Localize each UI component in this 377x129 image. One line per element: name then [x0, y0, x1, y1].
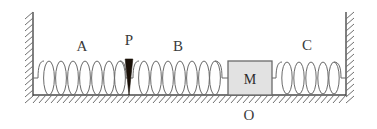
ground	[33, 95, 346, 103]
left-wall-hatching	[25, 12, 33, 103]
block-m-label: M	[244, 72, 257, 87]
ground-hatching	[33, 95, 346, 103]
label-spring-a: A	[77, 38, 88, 54]
label-pointer-p: P	[125, 32, 133, 48]
block-m: M	[228, 61, 272, 95]
left-wall	[25, 12, 33, 103]
spring-a	[33, 61, 129, 95]
spring-b	[129, 61, 228, 95]
label-spring-b: B	[173, 38, 183, 54]
label-spring-c: C	[302, 37, 312, 53]
spring-c	[272, 62, 346, 94]
right-wall-hatching	[346, 12, 354, 103]
diagram-canvas: M A P B C O	[0, 0, 377, 129]
right-wall	[346, 12, 354, 103]
label-origin-o: O	[244, 107, 255, 123]
spring-block-diagram: M A P B C O	[0, 0, 377, 129]
